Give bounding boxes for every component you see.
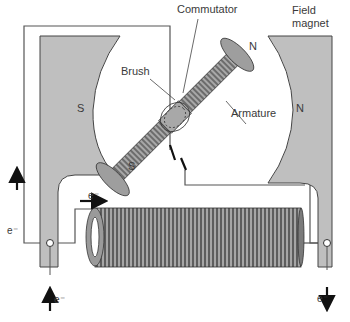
terminal-right <box>324 240 331 247</box>
pole-armature-top: N <box>249 40 257 52</box>
electron-label-top: e⁻ <box>88 190 99 201</box>
pole-right-field: N <box>296 102 304 114</box>
brush-right <box>181 158 186 170</box>
electron-label-left: e⁻ <box>7 225 18 236</box>
terminal-left <box>47 240 54 247</box>
field-coil <box>86 208 304 267</box>
label-brush: Brush <box>121 65 150 77</box>
electron-label-bottom-out: e⁻ <box>317 293 328 304</box>
label-armature: Armature <box>231 107 276 119</box>
pole-armature-bottom: S <box>128 160 135 172</box>
pole-left-field: S <box>77 102 84 114</box>
label-commutator: Commutator <box>177 3 238 15</box>
dc-motor-diagram: Commutator Field magnet Brush Armature S… <box>0 0 350 322</box>
label-field-line1: Field <box>292 4 316 16</box>
label-field-line2: magnet <box>292 17 329 29</box>
electron-label-bottom-in: e⁻ <box>54 294 65 305</box>
brush-left <box>170 145 175 160</box>
